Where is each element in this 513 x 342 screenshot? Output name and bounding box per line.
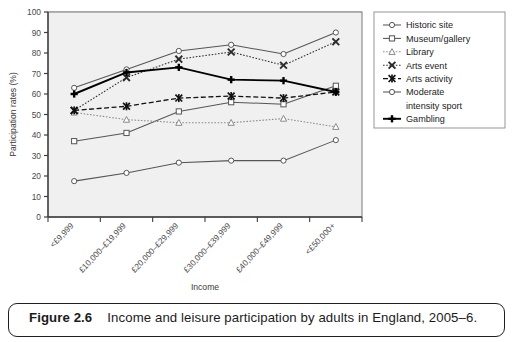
caption-line: Figure 2.6 Income and leisure participat… bbox=[29, 310, 477, 325]
legend-label[interactable]: Arts activity bbox=[406, 74, 453, 84]
legend-label[interactable]: Library bbox=[406, 47, 434, 57]
data-point-square bbox=[72, 139, 77, 144]
x-tick-label: £20,000–£29,999 bbox=[129, 220, 181, 274]
data-point-square bbox=[333, 83, 338, 88]
caption-spacer bbox=[96, 310, 104, 325]
caption-number: Figure 2.6 bbox=[29, 310, 92, 325]
x-tick-label: <£9,999 bbox=[48, 220, 76, 249]
legend-label[interactable]: Gambling bbox=[406, 114, 445, 124]
data-point-circle bbox=[389, 89, 394, 94]
y-tick-label: 50 bbox=[32, 110, 42, 120]
legend: Historic siteMuseum/galleryLibraryArts e… bbox=[374, 12, 505, 128]
y-tick-label: 30 bbox=[32, 151, 42, 161]
legend-label[interactable]: Museum/gallery bbox=[406, 34, 471, 44]
y-axis-title: Participation rates (%) bbox=[8, 72, 18, 157]
data-point-circle bbox=[281, 158, 286, 163]
data-point-circle bbox=[333, 30, 338, 35]
data-point-square bbox=[281, 102, 286, 107]
x-tick-label: £10,000–£19,999 bbox=[77, 220, 129, 274]
y-tick-label: 20 bbox=[32, 171, 42, 181]
data-point-circle bbox=[281, 51, 286, 56]
x-axis-title: Income bbox=[191, 282, 219, 292]
y-tick-label: 10 bbox=[32, 192, 42, 202]
data-point-square bbox=[389, 36, 394, 41]
data-point-circle bbox=[389, 22, 394, 27]
data-point-circle bbox=[229, 158, 234, 163]
legend-label[interactable]: Arts event bbox=[406, 61, 447, 71]
x-tick-label: £40,000–£49,999 bbox=[234, 220, 286, 274]
caption-box: Figure 2.6 Income and leisure participat… bbox=[8, 303, 505, 337]
y-tick-label: 60 bbox=[32, 89, 42, 99]
y-tick-label: 70 bbox=[32, 69, 42, 79]
x-tick-labels: <£9,999£10,000–£19,999£20,000–£29,999£30… bbox=[48, 217, 362, 275]
y-tick-label: 0 bbox=[36, 212, 41, 222]
data-point-circle bbox=[229, 42, 234, 47]
data-point-circle bbox=[176, 48, 181, 53]
data-point-square bbox=[176, 109, 181, 114]
legend-label[interactable]: Moderate bbox=[406, 87, 444, 97]
caption-text: Income and leisure participation by adul… bbox=[107, 310, 477, 325]
chart-area: 0102030405060708090100 <£9,999£10,000–£1… bbox=[0, 0, 513, 295]
plot-background bbox=[48, 12, 362, 217]
data-point-circle bbox=[124, 170, 129, 175]
data-point-circle bbox=[333, 138, 338, 143]
figure-container: 0102030405060708090100 <£9,999£10,000–£1… bbox=[0, 0, 513, 342]
x-tick-label: £30,000–£39,999 bbox=[181, 220, 233, 274]
y-tick-label: 80 bbox=[32, 48, 42, 58]
data-point-circle bbox=[72, 85, 77, 90]
y-tick-label: 40 bbox=[32, 130, 42, 140]
y-tick-label: 100 bbox=[27, 7, 41, 17]
x-tick-label: <£50,000+ bbox=[303, 220, 337, 256]
data-point-circle bbox=[72, 179, 77, 184]
data-point-square bbox=[229, 100, 234, 105]
data-point-circle bbox=[176, 160, 181, 165]
y-tick-labels: 0102030405060708090100 bbox=[27, 7, 48, 222]
line-chart: 0102030405060708090100 <£9,999£10,000–£1… bbox=[0, 0, 513, 295]
y-tick-label: 90 bbox=[32, 28, 42, 38]
legend-label[interactable]: Historic site bbox=[406, 20, 453, 30]
data-point-square bbox=[124, 130, 129, 135]
legend-label[interactable]: intensity sport bbox=[406, 101, 463, 111]
